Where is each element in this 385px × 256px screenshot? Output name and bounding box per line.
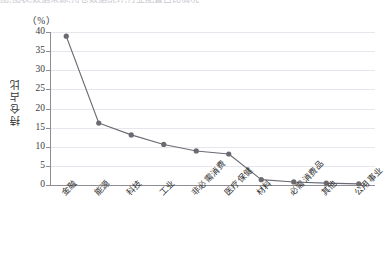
y-axis-tick-mark bbox=[46, 32, 50, 33]
y-axis-tick-mark bbox=[46, 185, 50, 186]
y-axis-tick-mark bbox=[46, 70, 50, 71]
data-point-marker[interactable] bbox=[96, 120, 101, 125]
y-axis-tick-mark bbox=[46, 109, 50, 110]
data-point-marker[interactable] bbox=[161, 142, 166, 147]
data-point-marker[interactable] bbox=[64, 34, 69, 39]
y-axis-tick-mark bbox=[46, 51, 50, 52]
data-point-marker[interactable] bbox=[226, 151, 231, 156]
data-point-marker[interactable] bbox=[129, 132, 134, 137]
y-axis-tick-mark bbox=[46, 128, 50, 129]
y-axis-tick-mark bbox=[46, 166, 50, 167]
y-axis-tick-mark bbox=[46, 147, 50, 148]
data-point-marker[interactable] bbox=[194, 148, 199, 153]
y-axis-tick-mark bbox=[46, 89, 50, 90]
